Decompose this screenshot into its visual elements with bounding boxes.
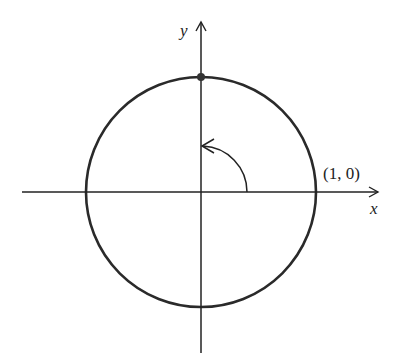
y-axis-label: y — [180, 22, 188, 39]
point-0-1-marker — [197, 73, 205, 81]
unit-circle-diagram: y x (1, 0) — [0, 0, 396, 353]
rotation-arc — [203, 146, 247, 192]
x-axis-label: x — [370, 200, 378, 217]
point-1-0-label: (1, 0) — [323, 165, 360, 182]
